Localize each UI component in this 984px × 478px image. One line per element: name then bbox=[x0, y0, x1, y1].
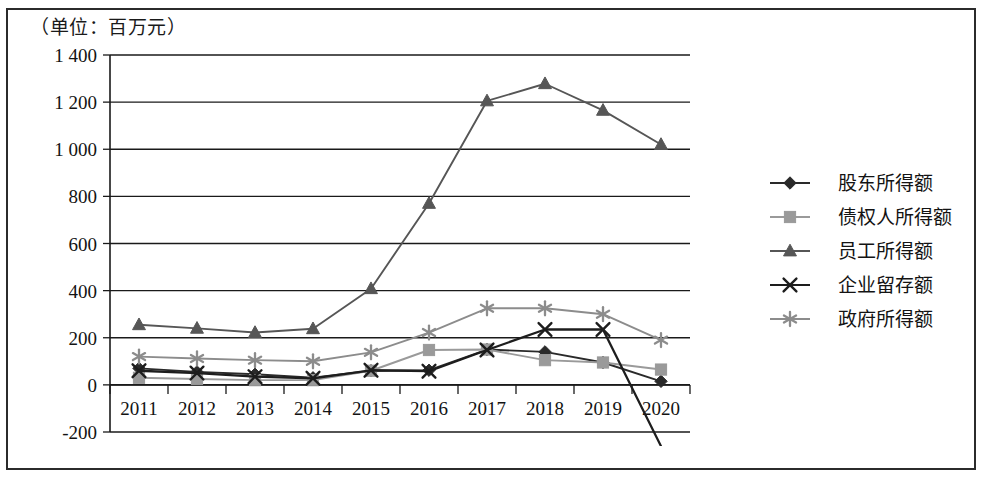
x-axis-tick-labels: 2011201220132014201520162017201820192020 bbox=[120, 398, 680, 419]
series-line bbox=[139, 350, 661, 382]
square-marker bbox=[784, 211, 795, 222]
legend-label: 债权人所得额 bbox=[838, 206, 952, 228]
legend-item-3[interactable]: 员工所得额 bbox=[770, 240, 933, 262]
square-marker bbox=[423, 344, 434, 355]
legend-label: 企业留存额 bbox=[838, 274, 933, 296]
y-tick-label: 1 000 bbox=[54, 139, 97, 160]
x-tick-label: 2014 bbox=[294, 398, 333, 419]
legend-label: 股东所得额 bbox=[838, 172, 933, 194]
y-tick-label: 1 400 bbox=[54, 45, 97, 66]
legend-label: 员工所得额 bbox=[838, 240, 933, 262]
series-3 bbox=[133, 77, 668, 338]
triangle-marker bbox=[133, 318, 146, 330]
x-tick-label: 2018 bbox=[526, 398, 564, 419]
diamond-marker bbox=[655, 375, 667, 387]
x-tick-label: 2011 bbox=[120, 398, 157, 419]
square-marker bbox=[307, 375, 318, 386]
triangle-marker bbox=[597, 104, 610, 116]
legend-item-2[interactable]: 债权人所得额 bbox=[770, 206, 952, 228]
diamond-marker bbox=[784, 177, 796, 189]
legend-item-4[interactable]: 企业留存额 bbox=[770, 274, 933, 296]
x-tick-label: 2015 bbox=[352, 398, 390, 419]
y-tick-label: 600 bbox=[69, 234, 98, 255]
legend-label: 政府所得额 bbox=[838, 308, 933, 330]
series-line bbox=[139, 308, 661, 361]
square-marker bbox=[539, 355, 550, 366]
x-tick-label: 2013 bbox=[236, 398, 274, 419]
triangle-marker bbox=[655, 138, 668, 150]
series-2 bbox=[133, 344, 666, 386]
series-5 bbox=[133, 301, 667, 368]
x-tick-label: 2019 bbox=[584, 398, 622, 419]
triangle-marker bbox=[307, 322, 320, 334]
y-tick-label: -200 bbox=[62, 422, 97, 443]
x-tick-label: 2017 bbox=[468, 398, 506, 419]
square-marker bbox=[191, 373, 202, 384]
series-line bbox=[139, 84, 661, 333]
star-marker bbox=[655, 333, 667, 347]
legend-item-5[interactable]: 政府所得额 bbox=[770, 308, 933, 330]
y-axis-tick-labels: 1 4001 2001 0008006004002000-200 bbox=[54, 45, 97, 443]
line-chart: 1 4001 2001 0008006004002000-200 2011201… bbox=[0, 0, 984, 478]
y-tick-label: 1 200 bbox=[54, 92, 97, 113]
triangle-marker bbox=[539, 77, 552, 89]
chart-figure: （单位：百万元） 1 4001 2001 0008006004002000-20… bbox=[0, 0, 984, 478]
y-tick-label: 200 bbox=[69, 328, 98, 349]
x-tick-label: 2020 bbox=[642, 398, 680, 419]
y-tick-label: 400 bbox=[69, 281, 98, 302]
y-tick-label: 0 bbox=[88, 375, 98, 396]
y-tick-label: 800 bbox=[69, 186, 98, 207]
series-1 bbox=[133, 343, 667, 387]
series-line bbox=[139, 350, 661, 381]
chart-legend: 股东所得额债权人所得额员工所得额企业留存额政府所得额 bbox=[770, 172, 952, 330]
legend-item-1[interactable]: 股东所得额 bbox=[770, 172, 933, 194]
square-marker bbox=[597, 357, 608, 368]
x-tick-label: 2016 bbox=[410, 398, 448, 419]
x-tick-label: 2012 bbox=[178, 398, 216, 419]
triangle-marker bbox=[423, 197, 436, 209]
square-marker bbox=[655, 364, 666, 375]
